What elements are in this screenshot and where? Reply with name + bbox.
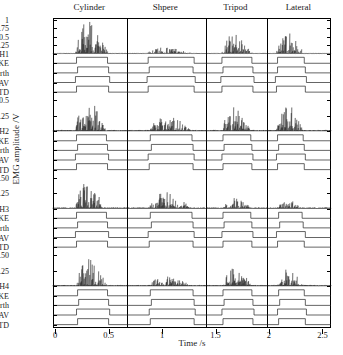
x-tick-label-2: 1 xyxy=(142,330,182,340)
detector-tick-mark xyxy=(53,141,57,142)
y-tick-mark xyxy=(53,286,57,287)
segment-title-lateral: Lateral xyxy=(258,2,338,12)
segment-title-shpere: Shpere xyxy=(125,2,205,12)
detector-tick-mark xyxy=(53,150,57,151)
y-tick-mark-right xyxy=(327,131,331,132)
y-tick-mark xyxy=(53,54,57,55)
y-tick-mark-right xyxy=(327,271,331,272)
detector-label-ch3-tke: TKE xyxy=(0,214,9,223)
y-tick-mark-right xyxy=(327,209,331,210)
detector-tick-mark xyxy=(53,315,57,316)
x-tick-label-1: 0.5 xyxy=(89,330,129,340)
detector-tick-mark xyxy=(53,83,57,84)
y-tick-mark-right xyxy=(327,28,331,29)
detector-tick-mark xyxy=(53,170,57,171)
detector-label-ch1-lidierth: Lidierth xyxy=(0,68,9,77)
detector-label-ch1-mav: MAV xyxy=(0,78,9,87)
y-tick-label-ch4-2: CH4 xyxy=(0,282,9,291)
emg-onset-detection-figure: EMG amplitude /V Time /s CylinderShpereT… xyxy=(0,0,343,355)
y-tick-mark xyxy=(53,271,57,272)
y-tick-label-ch1-4: CH1 xyxy=(0,49,9,58)
y-tick-mark-right xyxy=(327,37,331,38)
y-tick-mark xyxy=(53,178,57,179)
detector-tick-mark xyxy=(53,228,57,229)
y-tick-mark-right xyxy=(327,45,331,46)
y-tick-mark-right xyxy=(327,255,331,256)
detector-label-ch2-tke: TKE xyxy=(0,136,9,145)
detector-trace-ch4-std xyxy=(0,0,343,355)
y-tick-mark xyxy=(53,37,57,38)
x-tick-label-0: 0 xyxy=(35,330,75,340)
y-tick-mark-right xyxy=(327,193,331,194)
detector-tick-mark xyxy=(53,325,57,326)
y-tick-mark-right xyxy=(327,178,331,179)
detector-tick-mark xyxy=(53,296,57,297)
y-tick-mark xyxy=(53,193,57,194)
detector-tick-mark xyxy=(53,238,57,239)
y-tick-mark xyxy=(53,255,57,256)
y-tick-mark-right xyxy=(327,286,331,287)
y-tick-label-ch3-1: 0.25 xyxy=(0,189,9,198)
y-tick-mark xyxy=(53,45,57,46)
detector-tick-mark xyxy=(53,160,57,161)
y-tick-mark-right xyxy=(327,100,331,101)
x-tick-label-4: 2 xyxy=(249,330,289,340)
detector-tick-mark xyxy=(53,305,57,306)
y-tick-mark-right xyxy=(327,54,331,55)
detector-label-ch2-mav: MAV xyxy=(0,156,9,165)
y-tick-mark xyxy=(53,20,57,21)
y-tick-mark xyxy=(53,100,57,101)
y-tick-label-ch4-0: 0.50 xyxy=(0,251,9,260)
detector-label-ch4-std: STD xyxy=(0,320,9,329)
detector-tick-mark xyxy=(53,218,57,219)
y-tick-mark xyxy=(53,28,57,29)
x-tick-label-3: 1.5 xyxy=(196,330,236,340)
detector-label-ch1-tke: TKE xyxy=(0,59,9,68)
y-tick-label-ch3-0: 0.50 xyxy=(0,173,9,182)
y-tick-label-ch2-2: CH2 xyxy=(0,127,9,136)
detector-tick-mark xyxy=(53,92,57,93)
y-tick-mark-right xyxy=(327,116,331,117)
y-tick-mark xyxy=(53,131,57,132)
y-tick-mark xyxy=(53,209,57,210)
detector-tick-mark xyxy=(53,247,57,248)
detector-label-ch3-lidierth: Lidierth xyxy=(0,223,9,232)
x-tick-label-5: 2.5 xyxy=(302,330,342,340)
detector-label-ch3-mav: MAV xyxy=(0,233,9,242)
y-tick-label-ch2-1: 0.25 xyxy=(0,111,9,120)
detector-tick-mark xyxy=(53,63,57,64)
segment-title-cylinder: Cylinder xyxy=(49,2,129,12)
detector-label-ch4-lidierth: Lidierth xyxy=(0,301,9,310)
y-tick-label-ch3-2: CH3 xyxy=(0,204,9,213)
y-tick-label-ch2-0: 0.5 xyxy=(0,96,9,105)
detector-tick-mark xyxy=(53,73,57,74)
detector-label-ch4-tke: TKE xyxy=(0,291,9,300)
y-tick-label-ch4-1: 0.25 xyxy=(0,266,9,275)
y-tick-mark xyxy=(53,116,57,117)
detector-label-ch4-mav: MAV xyxy=(0,311,9,320)
y-tick-mark-right xyxy=(327,20,331,21)
detector-label-ch2-lidierth: Lidierth xyxy=(0,146,9,155)
